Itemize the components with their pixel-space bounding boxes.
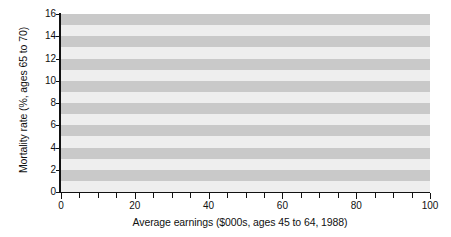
grid-band	[61, 81, 430, 92]
x-tick-mark-minor	[172, 193, 173, 198]
x-tick-label: 0	[41, 200, 81, 211]
y-tick-mark	[56, 81, 61, 82]
x-tick-mark-minor	[227, 193, 228, 198]
grid-band	[61, 92, 430, 103]
grid-band	[61, 148, 430, 159]
chart-figure: Mortality rate (%, ages 65 to 70) 024681…	[0, 0, 451, 237]
y-tick-mark	[56, 59, 61, 60]
plot-area	[61, 14, 430, 192]
x-tick-label: 80	[336, 200, 376, 211]
grid-band	[61, 103, 430, 114]
grid-band	[61, 36, 430, 47]
x-tick-mark-minor	[412, 193, 413, 198]
x-tick-mark-major	[209, 193, 210, 199]
x-tick-mark-minor	[319, 193, 320, 198]
y-tick-mark	[56, 36, 61, 37]
y-tick-mark	[56, 14, 61, 15]
x-axis-title: Average earnings ($000s, ages 45 to 64, …	[40, 216, 440, 228]
x-tick-mark-major	[356, 193, 357, 199]
grid-band	[61, 14, 430, 25]
grid-band	[61, 114, 430, 125]
x-tick-mark-minor	[264, 193, 265, 198]
grid-band	[61, 159, 430, 170]
y-tick-label: 14	[30, 31, 56, 41]
grid-band	[61, 70, 430, 81]
grid-band	[61, 136, 430, 147]
grid-band	[61, 181, 430, 192]
x-tick-mark-minor	[116, 193, 117, 198]
x-tick-mark-minor	[393, 193, 394, 198]
y-tick-label: 0	[30, 187, 56, 197]
x-tick-mark-major	[430, 193, 431, 199]
y-tick-label: 8	[30, 98, 56, 108]
x-tick-mark-major	[135, 193, 136, 199]
x-tick-mark-minor	[98, 193, 99, 198]
x-tick-mark-minor	[190, 193, 191, 198]
grid-band	[61, 47, 430, 58]
x-tick-mark-minor	[153, 193, 154, 198]
x-tick-label: 60	[262, 200, 302, 211]
y-tick-label: 16	[30, 9, 56, 19]
grid-band	[61, 59, 430, 70]
x-tick-label: 20	[115, 200, 155, 211]
y-tick-label: 10	[30, 76, 56, 86]
y-tick-label: 6	[30, 120, 56, 130]
y-tick-mark	[56, 148, 61, 149]
grid-band	[61, 170, 430, 181]
x-tick-mark-minor	[375, 193, 376, 198]
y-tick-mark	[56, 192, 61, 193]
x-tick-mark-minor	[301, 193, 302, 198]
y-tick-label: 12	[30, 54, 56, 64]
x-tick-mark-major	[61, 193, 62, 199]
x-tick-mark-minor	[79, 193, 80, 198]
grid-band	[61, 25, 430, 36]
x-tick-mark-major	[282, 193, 283, 199]
y-tick-mark	[56, 170, 61, 171]
x-tick-label: 40	[189, 200, 229, 211]
y-tick-mark	[56, 125, 61, 126]
y-tick-mark	[56, 103, 61, 104]
x-tick-mark-minor	[246, 193, 247, 198]
x-tick-mark-minor	[338, 193, 339, 198]
y-tick-label: 2	[30, 165, 56, 175]
x-tick-label: 100	[410, 200, 450, 211]
grid-band	[61, 125, 430, 136]
y-tick-label: 4	[30, 143, 56, 153]
